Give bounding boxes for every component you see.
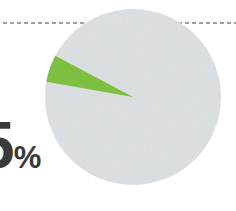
percentage-value: 5 (0, 108, 14, 182)
percent-sign: % (14, 140, 42, 175)
chart-canvas: 5% (0, 0, 236, 211)
percentage-callout: 5% (0, 112, 41, 178)
pie-chart-figure (0, 0, 236, 211)
